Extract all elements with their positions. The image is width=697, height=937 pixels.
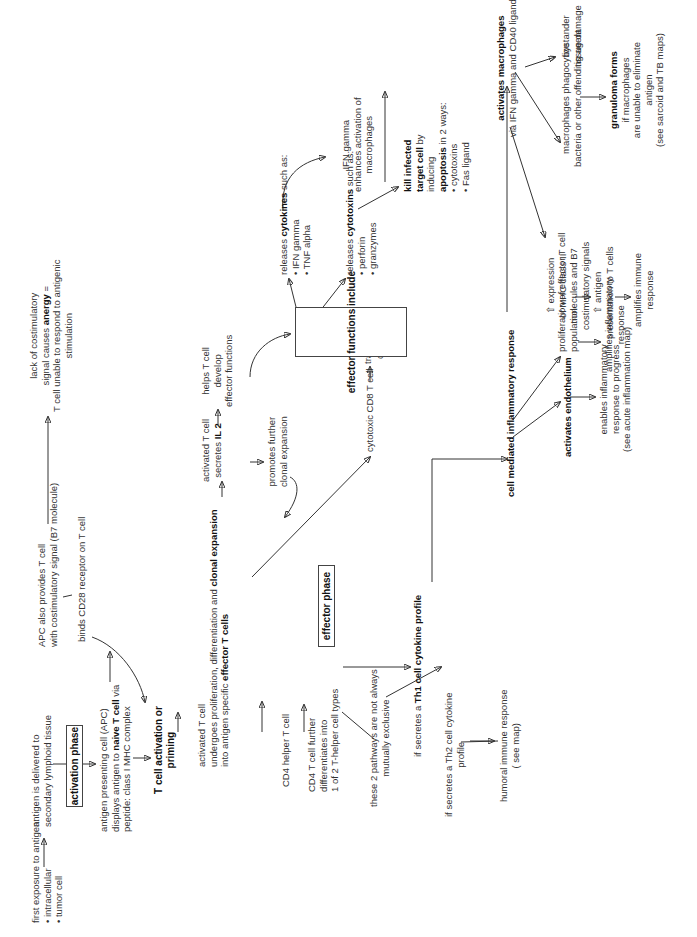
text-line: ⇧ expression	[545, 242, 557, 330]
text-line: antigen	[643, 33, 655, 147]
effector-functions-box: effector functions include	[295, 307, 407, 357]
text-line: APC also provides T cell	[36, 483, 48, 647]
target-cell-term: target cell	[414, 147, 425, 192]
text-line: macrophages phagocytize	[560, 30, 572, 167]
cytokines-term: cytokines	[278, 193, 289, 237]
text-line: CD4 T cell further	[306, 689, 318, 792]
text-line: proliferation of effector T cell	[556, 233, 568, 352]
cytokines-list: IFN gamma TNF alpha	[290, 155, 313, 275]
text-line: with costimulatory signal (B7 molecule)	[48, 483, 60, 647]
first-exposure-text: first exposure to antigen:	[30, 819, 42, 923]
text-span: releases	[344, 236, 355, 275]
diagram-frame: first exposure to antigen: intracellular…	[0, 0, 697, 937]
first-exposure-node: first exposure to antigen: intracellular…	[30, 819, 65, 923]
list-item: IFN gamma	[290, 155, 302, 275]
apoptosis-term: apoptosis	[437, 147, 448, 192]
pathways-note-node: these 2 pathways are not always mutually…	[368, 669, 391, 807]
text-line: amplifies inflammatory	[603, 278, 615, 373]
anergy-term: anergy	[40, 294, 51, 325]
text-line: (see sarcoid and TB maps)	[654, 33, 666, 147]
antigen-delivered-node: antigen is delivered to secondary lympho…	[30, 715, 53, 827]
binds-cd28-node: binds CD28 receptor on T cell	[76, 517, 88, 642]
text-line: secondary lymphoid tissue	[42, 715, 54, 827]
text-line: humoral immune response	[498, 690, 510, 802]
text-line: activates macrophages	[495, 0, 507, 137]
t-cell-activation-node: T cell activation or priming	[153, 706, 176, 794]
phagocytize-node: macrophages phagocytize bacteria or othe…	[560, 30, 583, 167]
text-line: if macrophages	[620, 33, 632, 147]
text-span: into antigen specific	[219, 681, 230, 767]
text-line: activated T cell	[200, 419, 212, 482]
text-line: antigen is delivered to	[30, 715, 42, 827]
effector-phase-box: effector phase	[318, 565, 335, 647]
list-item: intracellular	[42, 819, 54, 923]
text-line: priming	[165, 706, 177, 794]
text-line: releases cytokines such as:	[278, 155, 290, 275]
text-span: signal causes	[40, 325, 51, 385]
text-span: releases	[278, 236, 289, 275]
list-item: Fas ligand	[460, 102, 472, 192]
text-line: develop	[212, 335, 224, 407]
text-span: via	[110, 685, 121, 700]
clonal-expansion-term: clonal expansion	[208, 509, 219, 586]
th1-node: if secretes a Th1 cell cytokine profile	[412, 595, 424, 757]
text-line: promotes further	[266, 416, 278, 487]
text-line: signal causes anergy =	[40, 260, 52, 412]
text-line: ( see map)	[510, 690, 522, 802]
text-line: secretes IL 2	[212, 419, 224, 482]
promotes-clonal-node: promotes further clonal expansion	[266, 416, 289, 487]
text-line: bacteria or other offending agent	[572, 30, 584, 167]
helps-t-cell-node: helps T cell develop effector functions	[200, 335, 235, 407]
th2-node: if secretes a Th2 cell cytokine profile	[443, 693, 466, 817]
first-exposure-list: intracellular tumor cell	[42, 819, 65, 923]
concept-map-canvas: first exposure to antigen: intracellular…	[0, 0, 697, 937]
text-line: enhances activation of	[352, 97, 364, 192]
text-line: profile	[455, 693, 467, 817]
releases-cytokines-node: releases cytokines such as: IFN gamma TN…	[278, 155, 313, 275]
list-item: TNF alpha	[301, 155, 313, 275]
text-line: undergoes proliferation, differentiation…	[208, 509, 220, 767]
text-line: response	[615, 278, 627, 373]
text-span: such as:	[278, 155, 289, 193]
text-span: undergoes proliferation, differentiation…	[208, 587, 219, 767]
text-line: via IFN gamma and CD40 ligand	[507, 0, 519, 137]
text-line: mutually exclusive	[380, 669, 392, 807]
text-span: by	[414, 134, 425, 147]
cell-mediated-node: cell mediated inflammatory response	[505, 330, 517, 497]
text-span: =	[40, 286, 51, 294]
text-span: if secretes a	[412, 703, 423, 757]
effector-t-cells-term: effector T cells	[219, 614, 230, 681]
text-line: 1 of 2 T-helper cell types	[329, 689, 341, 792]
text-line: macrophages	[363, 97, 375, 192]
text-span: displays antigen to	[110, 751, 121, 832]
cytotoxic-cd8-node: cytotoxic CD8 T cell	[364, 368, 376, 452]
text-line: ⇧ antigen	[592, 246, 604, 339]
kill-infected-node: kill infected target cell by inducing ap…	[402, 102, 471, 192]
text-line: kill infected	[402, 102, 414, 192]
text-line: displays antigen to naive T cell via	[110, 685, 122, 832]
il2-term: IL 2	[212, 423, 223, 439]
text-line: if secretes a Th2 cell cytokine	[443, 693, 455, 817]
proliferation-effector-node: proliferation of effector T cell populat…	[556, 233, 579, 352]
text-line: antigen presenting cell (APC)	[98, 685, 110, 832]
text-line: effector functions	[223, 335, 235, 407]
apoptosis-list: cytotoxins Fas ligand	[448, 102, 471, 192]
text-line: peptide: class I MHC complex	[121, 685, 133, 832]
text-line: lack of costimulatory	[28, 260, 40, 412]
text-line: granuloma forms	[608, 33, 620, 147]
text-span: in 2 ways:	[437, 102, 448, 147]
text-line: costimulatory signals	[580, 242, 592, 330]
text-line: T cell unable to respond to antigenic	[51, 260, 63, 412]
text-line: IFN gamma	[340, 97, 352, 192]
text-line: amplifies immune	[632, 253, 644, 327]
text-line: inducing	[425, 102, 437, 192]
apc-displays-node: antigen presenting cell (APC) displays a…	[98, 685, 133, 832]
text-line: T cell activation or	[153, 706, 165, 794]
secretes-il2-node: activated T cell secretes IL 2	[200, 419, 223, 482]
text-line: into antigen specific effector T cells	[219, 509, 231, 767]
text-line: population	[568, 233, 580, 352]
activated-t-cell-node: activated T cell undergoes proliferation…	[196, 509, 231, 767]
granuloma-node: granuloma forms if macrophages are unabl…	[608, 33, 666, 147]
text-line: target cell by	[414, 102, 426, 192]
text-line: clonal expansion	[278, 416, 290, 487]
